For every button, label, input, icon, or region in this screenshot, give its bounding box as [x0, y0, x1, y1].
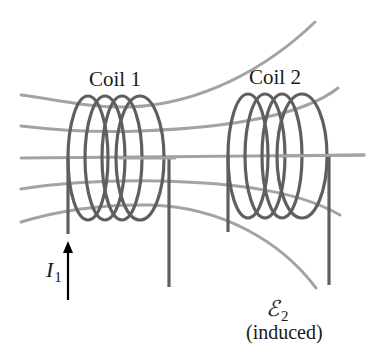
coil-1 — [68, 96, 169, 287]
current-arrow — [63, 241, 73, 300]
mutual-inductance-diagram: Coil 1 Coil 2 I1 ℰ2 (induced) — [0, 0, 381, 363]
coil-1-label: Coil 1 — [89, 67, 141, 91]
coil-2-label: Coil 2 — [249, 65, 301, 89]
emf-symbol: ℰ — [266, 296, 282, 321]
current-label: I1 — [45, 257, 62, 285]
field-overlay-2 — [280, 155, 364, 156]
field-line-2 — [21, 88, 338, 132]
emf-label: ℰ2 — [266, 296, 289, 324]
emf-note: (induced) — [246, 321, 323, 344]
current-subscript: 1 — [54, 269, 62, 285]
arrow-up-icon — [63, 241, 73, 253]
